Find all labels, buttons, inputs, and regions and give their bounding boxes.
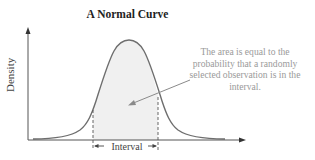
y-axis-label: Density [4, 58, 16, 92]
area-annotation: The area is equal to the probability tha… [182, 46, 308, 92]
x-axis-arrow-icon [239, 138, 246, 143]
interval-label: Interval [103, 141, 151, 152]
y-axis-arrow-icon [26, 27, 31, 34]
interval-arrow-right-head-icon [153, 144, 158, 148]
interval-arrow-left-head-icon [94, 144, 99, 148]
shaded-interval-area [93, 40, 158, 140]
